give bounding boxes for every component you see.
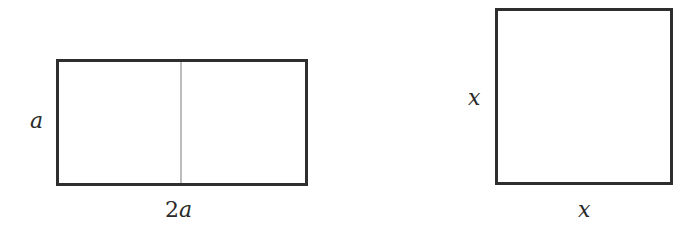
square-height-label: x	[468, 87, 480, 109]
coefficient: 2	[165, 197, 179, 222]
square-width-label: x	[578, 199, 590, 221]
rectangle-midline	[180, 62, 182, 183]
rectangle	[56, 59, 308, 186]
rectangle-height-label: a	[30, 110, 43, 132]
rectangle-width-label: 2a	[165, 199, 192, 221]
square	[495, 8, 673, 185]
variable: a	[179, 197, 192, 222]
